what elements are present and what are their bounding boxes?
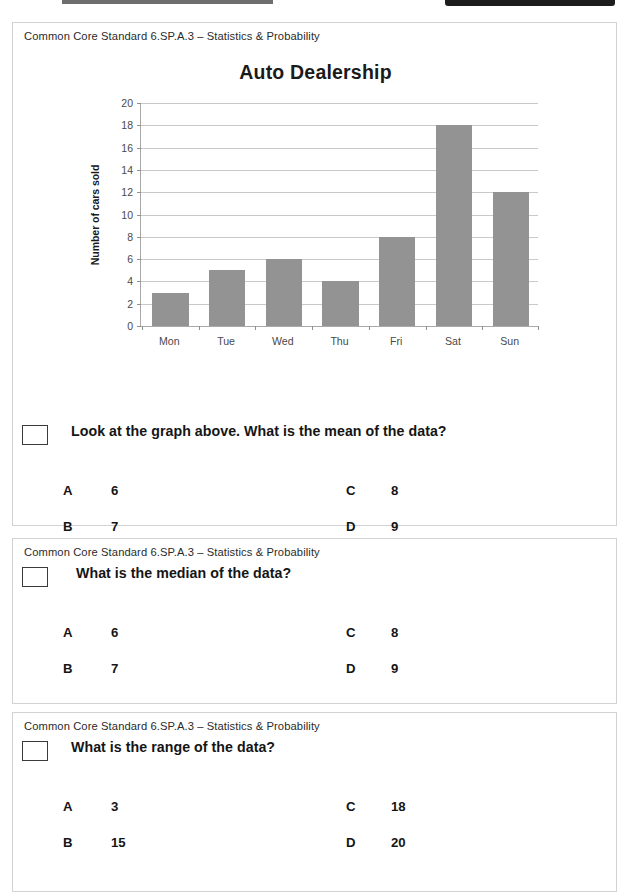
x-tick-mark [482,326,483,330]
answer-letter[interactable]: A [63,483,81,498]
answer-letter[interactable]: A [63,625,81,640]
x-tick-label: Mon [141,335,198,347]
chart-title: Auto Dealership [13,61,618,84]
x-tick-label: Thu [311,335,368,347]
x-tick-mark [538,326,539,330]
chart-bar [436,125,472,326]
answer-letter[interactable]: D [346,835,364,850]
y-tick-label: 18 [121,119,133,131]
answer-value[interactable]: 9 [391,661,398,676]
chart-bar-slot [482,103,539,326]
answer-checkbox-1[interactable] [22,425,48,445]
bar-chart: Auto Dealership Number of cars sold 0246… [13,23,618,373]
answer-value[interactable]: 8 [391,483,398,498]
answer-value[interactable]: 20 [391,835,406,850]
question-text-2: What is the median of the data? [76,565,291,581]
y-tick-mark [137,281,141,282]
y-tick-mark [137,304,141,305]
chart-bar-slot [312,103,369,326]
chart-bar-slot [369,103,426,326]
answer-letter[interactable]: B [63,835,81,850]
answer-letter[interactable]: C [346,483,364,498]
y-tick-mark [137,125,141,126]
y-tick-label: 6 [127,253,133,265]
y-tick-mark [137,237,141,238]
chart-bar [493,192,529,326]
y-tick-mark [137,192,141,193]
answer-value[interactable]: 7 [111,661,118,676]
x-tick-label: Tue [198,335,255,347]
answer-value[interactable]: 7 [111,519,118,534]
answer-letter[interactable]: D [346,661,364,676]
y-tick-label: 0 [127,320,133,332]
y-tick-mark [137,259,141,260]
question-panel-1: Common Core Standard 6.SP.A.3 – Statisti… [12,22,617,526]
answer-letter[interactable]: D [346,519,364,534]
chart-x-tick-labels: MonTueWedThuFriSatSun [141,335,538,347]
x-tick-mark [199,326,200,330]
y-tick-mark [137,170,141,171]
question-row-2: What is the median of the data? [13,565,618,595]
x-tick-label: Sun [481,335,538,347]
y-tick-label: 16 [121,142,133,154]
chart-bar [152,293,188,326]
x-tick-mark [369,326,370,330]
question-row-1: Look at the graph above. What is the mea… [13,423,618,453]
question-panel-3: Common Core Standard 6.SP.A.3 – Statisti… [12,712,617,892]
chart-bar [379,237,415,326]
y-tick-label: 10 [121,209,133,221]
x-tick-label: Wed [254,335,311,347]
question-row-3: What is the range of the data? [13,739,618,769]
answer-letter[interactable]: B [63,519,81,534]
answer-checkbox-3[interactable] [22,741,48,761]
answer-value[interactable]: 6 [111,483,118,498]
chart-bar [209,270,245,326]
y-tick-mark [137,215,141,216]
answer-value[interactable]: 15 [111,835,126,850]
answer-value[interactable]: 8 [391,625,398,640]
chart-bars [142,103,539,326]
answer-letter[interactable]: A [63,799,81,814]
question-text-3: What is the range of the data? [71,739,275,755]
chart-bar-slot [142,103,199,326]
x-tick-label: Fri [368,335,425,347]
y-tick-mark [137,148,141,149]
answer-letter[interactable]: B [63,661,81,676]
worksheet-page: Common Core Standard 6.SP.A.3 – Statisti… [0,0,629,895]
y-tick-label: 20 [121,97,133,109]
answer-letter[interactable]: C [346,625,364,640]
x-tick-mark [426,326,427,330]
chart-plot-area: 02468101214161820 [140,103,538,327]
scan-artifact-bar-left [62,0,273,4]
y-tick-label: 14 [121,164,133,176]
y-tick-label: 12 [121,186,133,198]
y-tick-mark [137,326,141,327]
standard-label-2: Common Core Standard 6.SP.A.3 – Statisti… [24,546,320,558]
y-tick-label: 4 [127,275,133,287]
chart-bar-slot [255,103,312,326]
y-tick-label: 2 [127,298,133,310]
answer-letter[interactable]: C [346,799,364,814]
x-tick-mark [255,326,256,330]
x-tick-mark [142,326,143,330]
answer-checkbox-2[interactable] [22,567,48,587]
question-panel-2: Common Core Standard 6.SP.A.3 – Statisti… [12,538,617,704]
answer-value[interactable]: 3 [111,799,118,814]
y-tick-label: 8 [127,231,133,243]
gridline [141,326,538,327]
x-tick-mark [312,326,313,330]
answer-value[interactable]: 6 [111,625,118,640]
chart-bar-slot [426,103,483,326]
question-text-1: Look at the graph above. What is the mea… [71,423,447,439]
answer-value[interactable]: 18 [391,799,406,814]
scan-artifact-bar-right [445,0,615,6]
chart-y-axis-label: Number of cars sold [89,165,101,266]
chart-bar [266,259,302,326]
x-tick-label: Sat [425,335,482,347]
y-tick-mark [137,103,141,104]
chart-bar [322,281,358,326]
standard-label-3: Common Core Standard 6.SP.A.3 – Statisti… [24,720,320,732]
chart-bar-slot [199,103,256,326]
answer-value[interactable]: 9 [391,519,398,534]
